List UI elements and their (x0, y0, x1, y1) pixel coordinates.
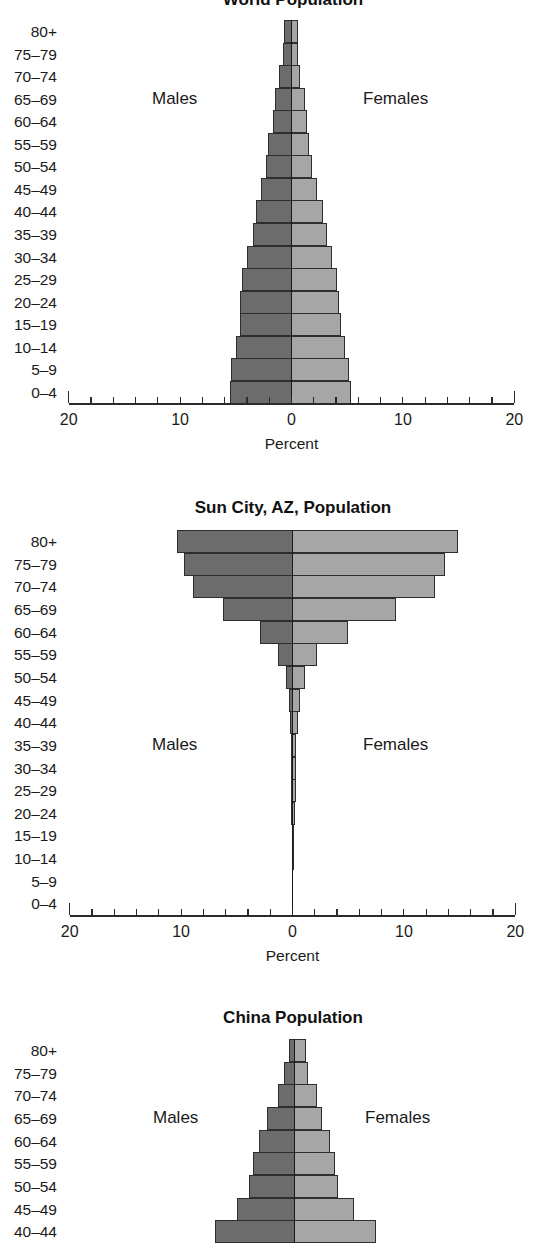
females-label: Females (365, 1108, 430, 1128)
female-bar (295, 1130, 331, 1153)
age-group-label: 65–69 (0, 1108, 57, 1130)
male-bar (267, 1107, 295, 1130)
female-bar (295, 1062, 308, 1085)
female-bar (295, 1198, 354, 1221)
age-group-label: 70–74 (0, 1085, 57, 1107)
age-group-label: 40–44 (0, 1221, 57, 1243)
male-bar (215, 1220, 294, 1243)
female-bar (295, 1152, 335, 1175)
age-group-label: 80+ (0, 1040, 57, 1062)
female-bar (295, 1220, 376, 1243)
female-bar (295, 1175, 338, 1198)
female-bar (295, 1084, 317, 1107)
age-group-label: 50–54 (0, 1176, 57, 1198)
female-bar (295, 1039, 306, 1062)
center-axis-line (294, 1039, 295, 1243)
male-bar (249, 1175, 295, 1198)
age-group-label: 55–59 (0, 1153, 57, 1175)
males-label: Males (153, 1108, 198, 1128)
male-bar (278, 1084, 295, 1107)
female-bar (295, 1107, 323, 1130)
male-bar (237, 1198, 295, 1221)
male-bar (259, 1130, 295, 1153)
age-group-label: 60–64 (0, 1131, 57, 1153)
age-group-label: 45–49 (0, 1199, 57, 1221)
chart-title: China Population (0, 1008, 556, 1028)
male-bar (253, 1152, 294, 1175)
male-bar (284, 1062, 294, 1085)
age-group-label: 75–79 (0, 1063, 57, 1085)
